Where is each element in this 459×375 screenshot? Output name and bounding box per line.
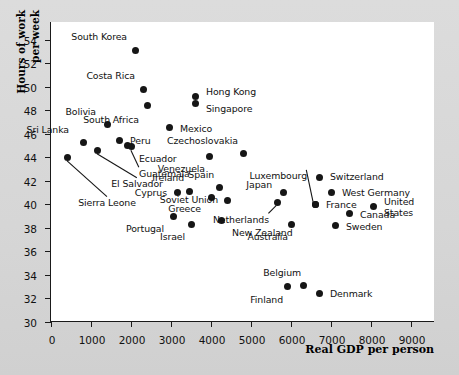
point-label: Luxembourg — [250, 172, 307, 181]
point-label: Israel — [160, 233, 185, 242]
y-tick-label: 40 — [24, 199, 37, 211]
x-tick: 5000 — [251, 321, 252, 327]
point-label: Hong Kong — [206, 87, 256, 96]
point-label: Sri Lanka — [27, 125, 69, 134]
point-label: Ecuador — [139, 154, 177, 163]
y-tick-label: 36 — [24, 246, 37, 258]
x-tick: 6000 — [291, 321, 292, 327]
point-label: Mexico — [180, 124, 212, 133]
point-label: Costa Rica — [86, 71, 135, 80]
point-label: Netherlands — [213, 215, 269, 224]
x-tick-label: 4000 — [199, 334, 226, 346]
x-tick-label: 1000 — [79, 334, 106, 346]
y-tick-label: 42 — [24, 176, 37, 188]
x-tick: 4000 — [211, 321, 212, 327]
point-label: Sweden — [346, 222, 382, 231]
x-tick-label: 3000 — [159, 334, 186, 346]
point-label: Australia — [247, 233, 288, 242]
x-tick: 2000 — [131, 321, 132, 327]
point-label: France — [326, 201, 357, 210]
point-label: South Korea — [71, 33, 127, 42]
x-tick-label: 0 — [49, 334, 56, 346]
y-tick-label: 54 — [24, 35, 37, 47]
y-tick-label: 52 — [24, 58, 37, 70]
x-tick: 1000 — [91, 321, 92, 327]
point-label: South Africa — [83, 115, 139, 124]
y-tick-label: 30 — [24, 317, 37, 329]
x-tick-label: 2000 — [119, 334, 146, 346]
y-tick-label: 44 — [24, 152, 37, 164]
x-tick: 0 — [51, 321, 52, 327]
point-label: Belgium — [263, 268, 301, 277]
point-label: Czechoslovakia — [167, 136, 238, 145]
y-tick-label: 38 — [24, 223, 37, 235]
point-label: Ireland — [152, 174, 184, 183]
y-tick-label: 32 — [24, 293, 37, 305]
x-tick: 7000 — [331, 321, 332, 327]
point-label: Finland — [250, 295, 283, 304]
point-label: United — [384, 197, 414, 206]
x-tick-label: 5000 — [239, 334, 266, 346]
point-label: States — [384, 208, 413, 217]
point-label: Sierra Leone — [78, 199, 136, 208]
point-label: Greece — [168, 205, 201, 214]
x-tick-label: 6000 — [279, 334, 306, 346]
x-tick: 9000 — [411, 321, 412, 327]
y-tick-label: 50 — [24, 82, 37, 94]
y-tick-label: 48 — [24, 105, 37, 117]
x-tick-label: 9000 — [399, 334, 426, 346]
x-tick: 3000 — [171, 321, 172, 327]
point-label: Soviet Union — [160, 195, 218, 204]
point-label: Switzerland — [330, 173, 384, 182]
y-tick-label: 34 — [24, 270, 37, 282]
point-label: Denmark — [330, 289, 372, 298]
point-label: Spain — [188, 170, 214, 179]
plot-area: 30323436384042444648505254 0100020003000… — [50, 22, 434, 322]
x-tick-label: 8000 — [359, 334, 386, 346]
point-labels: Sierra LeoneSri LankaEl SalvadorBoliviaP… — [51, 22, 434, 321]
x-tick: 8000 — [371, 321, 372, 327]
x-tick-label: 7000 — [319, 334, 346, 346]
point-label: Portugal — [126, 224, 164, 233]
chart-figure: Hours of work per week Real GDP per pers… — [0, 0, 459, 375]
point-label: Peru — [130, 136, 150, 145]
point-label: Singapore — [206, 104, 252, 113]
